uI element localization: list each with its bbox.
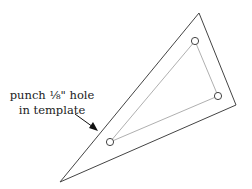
annotation-label: punch ⅛" hole in template xyxy=(2,88,102,118)
annotation-line-1: punch ⅛" hole xyxy=(2,88,102,103)
hole-bottom-left xyxy=(106,138,113,145)
hole-top xyxy=(191,37,198,44)
hole-right xyxy=(214,92,221,99)
pointer-arrow-head xyxy=(89,122,98,131)
annotation-line-2: in template xyxy=(2,103,102,118)
